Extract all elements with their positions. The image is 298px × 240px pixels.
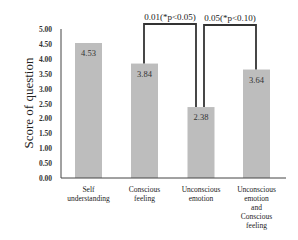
x-tick-label: feeling <box>246 221 267 230</box>
bar <box>243 70 270 178</box>
x-tick-label: understanding <box>67 194 110 203</box>
x-tick-label: Conscious <box>129 185 160 194</box>
significance-brackets: 0.01(*p<0.05)0.05(*p<0.10) <box>144 12 256 107</box>
significance-label: 0.01(*p<0.05) <box>144 12 196 22</box>
y-tick-label: 1.00 <box>39 144 52 153</box>
x-tick-label: emotion <box>189 194 214 203</box>
bars: 4.533.842.383.64 <box>75 43 270 178</box>
bar <box>75 43 102 178</box>
x-tick-label: Unconscious <box>237 185 276 194</box>
bar <box>131 64 158 178</box>
bar-value-label: 2.38 <box>194 112 209 122</box>
y-axis-ticks: 0.000.501.001.502.002.503.003.504.004.50… <box>39 25 52 183</box>
bar-value-label: 4.53 <box>81 48 96 58</box>
bar-value-label: 3.84 <box>137 69 153 79</box>
y-tick-label: 0.50 <box>39 159 52 168</box>
x-tick-label: and <box>251 203 262 212</box>
y-tick-label: 2.50 <box>39 100 52 109</box>
y-tick-label: 2.00 <box>39 114 52 123</box>
y-tick-label: 4.00 <box>39 55 52 64</box>
x-tick-label: emotion <box>244 194 269 203</box>
y-tick-label: 0.00 <box>39 174 52 183</box>
x-tick-label: Unconscious <box>182 185 221 194</box>
x-tick-label: feeling <box>134 194 155 203</box>
bar-value-label: 3.64 <box>249 75 265 85</box>
bar-chart: 0.000.501.001.502.002.503.003.504.004.50… <box>0 0 298 240</box>
x-tick-label: Conscious <box>241 212 272 221</box>
y-tick-label: 3.50 <box>39 70 52 79</box>
x-tick-label: Self <box>82 185 95 194</box>
y-tick-label: 3.00 <box>39 85 52 94</box>
significance-label: 0.05(*p<0.10) <box>204 13 256 23</box>
y-tick-label: 4.50 <box>39 40 52 49</box>
y-tick-label: 1.50 <box>39 129 52 138</box>
y-tick-label: 5.00 <box>39 25 52 34</box>
x-axis-labels: SelfunderstandingConsciousfeelingUnconsc… <box>67 185 276 230</box>
